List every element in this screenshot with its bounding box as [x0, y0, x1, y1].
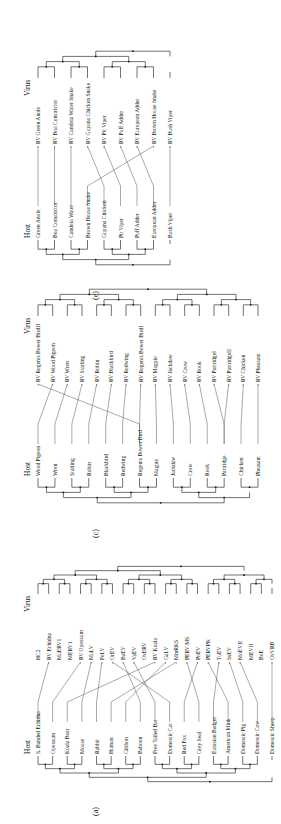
virus-label: RV Regents Bower BirdI — [138, 326, 144, 382]
tanglegram-canvas: (a)HostVirusS. Banded EchidnaOpossumKoal… — [0, 0, 281, 824]
virus-label: RV Crow — [182, 360, 188, 382]
host-label: Redwing — [120, 456, 126, 476]
virus-label: MERV1 — [67, 641, 73, 660]
virus-label: RV PartridgeI — [211, 351, 217, 382]
host-label: Candoia Water — [68, 205, 74, 238]
virus-label: BaEV — [120, 646, 126, 660]
virus-label: RV Echidna — [46, 633, 52, 660]
panel-label: (c) — [91, 529, 100, 538]
virus-label: SsEV — [226, 647, 232, 660]
association-link — [224, 384, 229, 444]
association-link — [134, 662, 155, 722]
association-link — [126, 662, 166, 722]
virus-label: RV Green Anole — [35, 106, 41, 144]
virus-label: RV Koala — [152, 638, 158, 660]
virus-label: GaLV — [163, 647, 169, 660]
host-label: Guyana Chicken — [101, 200, 107, 238]
virus-label: BoE — [258, 649, 264, 660]
host-label: Mouse — [79, 738, 85, 754]
virus-label: RV Pit Viper — [101, 115, 107, 144]
virus-label: OvERV — [141, 642, 147, 660]
host-label: Green Anole — [35, 209, 41, 238]
host-label: Rabbit — [94, 739, 100, 754]
host-label: Free Tailed Bat — [152, 719, 158, 754]
association-link — [214, 662, 219, 722]
panel-label: (a) — [91, 807, 100, 816]
virus-label: RV Regents Bower BirdII — [35, 324, 41, 382]
host-label: Boa Constrictor — [52, 202, 58, 238]
host-label: Koala Bear — [64, 729, 70, 754]
association-link — [104, 146, 121, 206]
virus-label: RV Magpie — [152, 356, 158, 382]
host-label: Wren — [52, 464, 58, 476]
association-link — [38, 384, 53, 444]
host-label: Rook — [204, 464, 210, 476]
virus-label: VaEV — [131, 647, 137, 660]
virus-label: PoEV — [195, 647, 201, 660]
virus-label: RV Boa Constrictor — [52, 100, 58, 144]
association-link — [106, 384, 112, 444]
host-header: Host — [23, 461, 32, 476]
association-link — [137, 146, 154, 206]
virus-label: TuEV — [216, 647, 222, 660]
host-label: Gibbon — [123, 737, 129, 754]
host-label: Chicken — [238, 457, 244, 476]
association-link — [89, 384, 97, 444]
virus-label: RV Bush Viper — [167, 110, 173, 144]
virus-label: MuERV1 — [56, 638, 62, 660]
virus-label: RV Chicken — [240, 355, 246, 382]
panel-e: (e)HostVirusGreen AnoleBoa ConstrictorCa… — [23, 50, 173, 300]
host-label: Blackbird — [103, 454, 109, 476]
virus-label: RV Guyana Chicken Snake — [85, 82, 91, 144]
virus-label: RV European Adder — [134, 99, 140, 144]
panel-a: (a)HostVirusS. Banded EchidnaOpossumKoal… — [23, 565, 275, 816]
virus-label: RV Pheasant — [255, 353, 261, 382]
association-link — [214, 384, 224, 444]
virus-label: RV Candoia Water Snake — [68, 87, 74, 144]
host-label: Opossum — [50, 732, 56, 754]
virus-label: RV Brown House Snake — [151, 89, 157, 144]
association-link — [208, 662, 228, 722]
virus-label: RV Starling — [79, 355, 85, 382]
association-link — [123, 384, 126, 444]
association-link — [187, 662, 199, 722]
host-label: American Mink — [225, 718, 231, 754]
panel-label: (e) — [91, 291, 100, 300]
virus-label: RV Robin — [94, 360, 100, 382]
host-label: Human — [108, 737, 114, 754]
virus-label: RV Wood Pigeon — [50, 343, 56, 382]
host-label: European Adder — [151, 201, 157, 238]
association-link — [229, 662, 242, 722]
host-label: Pheasant — [255, 456, 261, 476]
association-link — [199, 384, 207, 444]
host-header: Host — [23, 223, 32, 238]
virus-header: Virus — [23, 80, 32, 96]
virus-header: Virus — [23, 596, 32, 612]
virus-label: MmRKS — [173, 640, 179, 660]
virus-label: RV Puff Adder — [118, 111, 124, 144]
association-link — [121, 146, 138, 206]
tanglegram-figure: (a)HostVirusS. Banded EchidnaOpossumKoal… — [0, 0, 281, 824]
host-label: Robin — [86, 462, 92, 476]
virus-label: RV Wren — [64, 361, 70, 382]
virus-label: MEVII — [248, 644, 254, 660]
host-label: Baboon — [137, 736, 143, 754]
virus-label: PERVPK — [205, 639, 211, 660]
host-label: Domestic Pig — [240, 723, 246, 754]
virus-label: RV Rook — [196, 361, 202, 382]
association-link — [241, 384, 243, 444]
association-link — [155, 384, 156, 444]
host-label: Domestic Sheep — [269, 717, 275, 754]
host-header: Host — [23, 739, 32, 754]
host-label: Wood Pigeon — [35, 446, 41, 476]
virus-label: RV Redwing — [123, 353, 129, 382]
association-link — [53, 662, 81, 722]
host-label: Red Fox — [181, 735, 187, 754]
association-link — [170, 384, 173, 444]
host-label: Grey Seal — [196, 731, 202, 754]
virus-label: OvVRB — [269, 641, 275, 660]
association-link — [112, 662, 169, 722]
host-label: Crow — [187, 463, 193, 476]
association-link — [111, 662, 176, 722]
virus-label: OrEV — [109, 647, 115, 660]
